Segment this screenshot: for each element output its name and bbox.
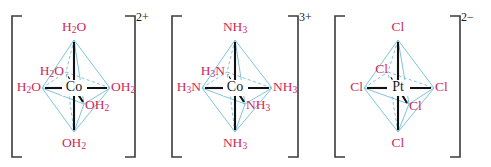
metal-center-label: Co bbox=[66, 79, 82, 94]
right-bracket bbox=[450, 16, 460, 157]
ligand-label-right: NH3 bbox=[273, 79, 298, 95]
ligand-label-inner-back: H3N bbox=[201, 63, 226, 79]
ligand-label-top: H2O bbox=[62, 19, 87, 35]
ligand-label-left: H3N bbox=[177, 79, 202, 95]
complex-hexaaquacobalt: H2O OH2 H2O OH2 H2O OH2 Co 2+ bbox=[0, 0, 160, 167]
charge-label: 2− bbox=[461, 10, 474, 24]
ligand-label-inner-back: Cl bbox=[375, 61, 388, 76]
ligand-label-bottom: Cl bbox=[392, 135, 405, 150]
ligand-label-inner-back: H2O bbox=[40, 63, 65, 79]
ligand-label-inner-front: NH3 bbox=[246, 97, 271, 113]
metal-center-label: Pt bbox=[392, 79, 404, 94]
octahedral-complexes-figure: H2O OH2 H2O OH2 H2O OH2 Co 2+ bbox=[0, 0, 491, 167]
ligand-label-top: NH3 bbox=[223, 19, 248, 35]
ligand-label-top: Cl bbox=[392, 19, 405, 34]
ligand-label-left: H2O bbox=[17, 79, 42, 95]
metal-center-label: Co bbox=[227, 79, 243, 94]
ligand-label-left: Cl bbox=[350, 79, 363, 94]
charge-label: 3+ bbox=[299, 10, 312, 24]
ligand-label-right: Cl bbox=[435, 79, 448, 94]
ligand-label-inner-front: OH2 bbox=[85, 97, 110, 113]
ligand-label-inner-front: Cl bbox=[409, 98, 422, 113]
complex-hexachloroplatinate: Cl Cl Cl Cl Cl Cl Pt 2− bbox=[322, 0, 491, 167]
left-bracket bbox=[335, 16, 345, 157]
ligand-label-right: OH2 bbox=[111, 79, 136, 95]
ligand-label-bottom: NH3 bbox=[223, 135, 248, 151]
charge-label: 2+ bbox=[136, 10, 149, 24]
ligand-label-bottom: OH2 bbox=[62, 135, 87, 151]
complex-hexaamminecobalt: NH3 NH3 H3N NH3 H3N NH3 Co 3+ bbox=[158, 0, 323, 167]
